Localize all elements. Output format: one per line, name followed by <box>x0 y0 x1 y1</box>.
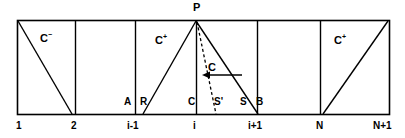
axis-tick-n-plus-1: N+1 <box>373 121 392 131</box>
node-label-s-prime: S' <box>214 97 223 107</box>
region-superscript: − <box>48 31 52 38</box>
region-label-c-inner: C <box>208 60 216 73</box>
node-label-b: B <box>256 97 263 107</box>
node-label-r: R <box>140 97 147 107</box>
axis-tick-2: 2 <box>71 121 77 131</box>
region-base-text: C <box>208 61 216 73</box>
node-label-c: C <box>188 97 195 107</box>
axis-tick-i-minus-1: i-1 <box>127 121 139 131</box>
region-base-text: C <box>155 34 163 46</box>
region-base-text: C <box>40 32 48 44</box>
node-label-a: A <box>124 97 131 107</box>
region-superscript: + <box>342 33 346 40</box>
axis-tick-i-plus-1: i+1 <box>248 121 262 131</box>
node-label-s: S <box>240 97 247 107</box>
region-base-text: C <box>334 34 342 46</box>
region-label-c-plus-right: C+ <box>334 33 346 46</box>
triangle-right-leg <box>196 21 258 114</box>
region-label-c-plus-middle: C+ <box>155 33 167 46</box>
region-label-c-minus-left: C− <box>40 31 52 44</box>
axis-tick-n: N <box>316 121 323 131</box>
figure-drawing <box>0 0 405 138</box>
right-boundary-diagonal <box>323 21 388 114</box>
axis-tick-i: i <box>193 121 196 131</box>
axis-tick-1: 1 <box>16 121 22 131</box>
apex-label-p: P <box>193 2 200 13</box>
figure-container: P C− C+ C C+ A R C S' S B 1 2 i-1 i i+1 … <box>0 0 405 138</box>
region-superscript: + <box>163 33 167 40</box>
